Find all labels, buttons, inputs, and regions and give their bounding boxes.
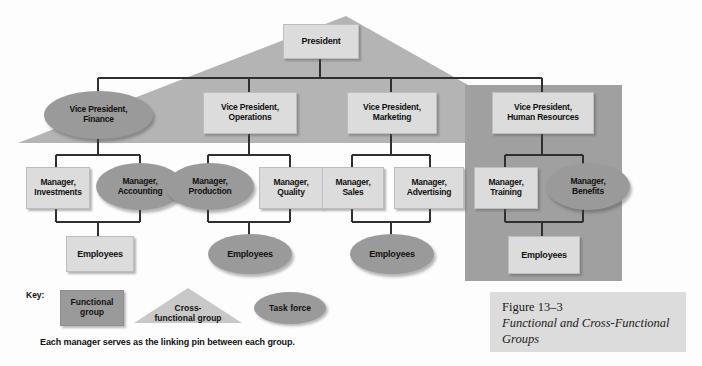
node-manager-quality-label-2: Quality: [277, 187, 304, 197]
figure-number: Figure 13–3: [502, 299, 676, 315]
legend-functional-group-label-1: Functional: [71, 297, 114, 307]
node-manager-investments[interactable]: Manager, Investments: [26, 167, 90, 209]
legend-task-force: Task force: [254, 292, 326, 324]
node-manager-benefits-label-2: Benefits: [572, 186, 604, 196]
node-vp-marketing-label-1: Vice President,: [363, 102, 421, 112]
node-vp-human-resources-label-1: Vice President,: [514, 102, 572, 112]
node-employees-finance-label: Employees: [77, 249, 123, 259]
node-vp-human-resources-label-2: Human Resources: [507, 112, 579, 122]
node-manager-production-label-2: Production: [189, 186, 232, 196]
node-manager-quality-label-1: Manager,: [273, 177, 308, 187]
node-employees-operations[interactable]: Employees: [208, 234, 292, 274]
node-vp-operations-label-2: Operations: [229, 112, 272, 122]
node-president-label: President: [301, 36, 340, 46]
legend-functional-group: Functional group: [60, 290, 124, 326]
node-vp-finance[interactable]: Vice President, Finance: [44, 91, 153, 139]
node-manager-investments-label-1: Manager,: [40, 177, 75, 187]
legend-cross-functional-group: Cross- functional group: [134, 289, 242, 324]
node-employees-marketing[interactable]: Employees: [350, 234, 434, 274]
legend-task-force-label: Task force: [269, 303, 311, 313]
legend-cross-functional-group-label-1: Cross-: [175, 303, 202, 313]
figure-title-line-1: Functional and Cross-Functional: [502, 315, 676, 331]
figure-title-line-2: Groups: [502, 331, 676, 347]
node-employees-finance[interactable]: Employees: [66, 236, 134, 272]
figure-canvas: President Vice President, Finance Vice P…: [0, 0, 702, 366]
node-employees-human-resources-label: Employees: [521, 250, 567, 260]
node-manager-investments-label-2: Investments: [34, 187, 81, 197]
node-manager-benefits[interactable]: Manager, Benefits: [546, 163, 630, 210]
node-vp-finance-label-2: Finance: [83, 114, 114, 124]
legend-cross-functional-group-label-2: functional group: [154, 313, 221, 323]
node-manager-sales-label-1: Manager,: [335, 177, 370, 187]
node-employees-human-resources[interactable]: Employees: [508, 236, 580, 274]
node-manager-benefits-label-1: Manager,: [570, 176, 605, 186]
node-vp-operations-label-1: Vice President,: [221, 102, 279, 112]
node-employees-operations-label: Employees: [227, 249, 273, 259]
key-caption: Each manager serves as the linking pin b…: [40, 337, 295, 347]
node-manager-advertising-label-1: Manager,: [411, 177, 446, 187]
node-manager-advertising-label-2: Advertising: [407, 187, 452, 197]
key-label: Key:: [26, 290, 44, 300]
node-manager-training-label-2: Training: [490, 187, 521, 197]
node-president[interactable]: President: [283, 24, 359, 59]
node-employees-marketing-label: Employees: [369, 249, 415, 259]
node-manager-production-label-1: Manager,: [192, 176, 227, 186]
node-vp-human-resources[interactable]: Vice President, Human Resources: [492, 92, 594, 134]
node-manager-advertising[interactable]: Manager, Advertising: [394, 167, 464, 209]
node-manager-training[interactable]: Manager, Training: [474, 167, 538, 209]
node-manager-production[interactable]: Manager, Production: [166, 163, 254, 210]
node-manager-accounting-label-2: Accounting: [118, 186, 163, 196]
node-vp-operations[interactable]: Vice President, Operations: [203, 92, 297, 134]
node-manager-sales-label-2: Sales: [342, 187, 363, 197]
node-manager-quality[interactable]: Manager, Quality: [259, 167, 323, 209]
node-vp-marketing[interactable]: Vice President, Marketing: [347, 92, 437, 134]
figure-caption: Figure 13–3 Functional and Cross-Functio…: [490, 292, 686, 352]
node-vp-marketing-label-2: Marketing: [373, 112, 411, 122]
node-manager-accounting-label-1: Manager,: [122, 176, 157, 186]
node-manager-sales[interactable]: Manager, Sales: [322, 167, 384, 209]
node-vp-finance-label-1: Vice President,: [70, 104, 128, 114]
node-manager-training-label-1: Manager,: [488, 177, 523, 187]
legend-functional-group-label-2: group: [80, 307, 104, 317]
